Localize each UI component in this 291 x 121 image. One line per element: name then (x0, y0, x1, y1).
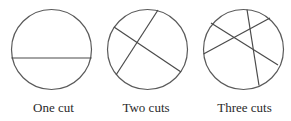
cut-line (247, 10, 259, 86)
panel-one-cut: One cut (12, 10, 92, 116)
label-one-cut: One cut (33, 100, 74, 115)
label-two-cuts: Two cuts (122, 100, 169, 115)
panel-two-cuts: Two cuts (108, 10, 188, 116)
circle-three-cuts (204, 10, 284, 90)
pizza-cuts-diagram: One cut Two cuts Three cuts (0, 0, 291, 121)
circle-one-cut (12, 10, 92, 90)
cut-line (116, 10, 158, 75)
panel-three-cuts: Three cuts (204, 10, 284, 116)
cut-line (114, 27, 181, 72)
label-three-cuts: Three cuts (217, 100, 272, 115)
